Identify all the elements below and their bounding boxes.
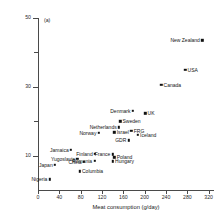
data-point xyxy=(78,170,80,172)
data-point-label: Columbia xyxy=(82,169,103,174)
x-axis-tick-label: 240 xyxy=(162,195,171,200)
data-point xyxy=(113,131,115,133)
x-axis-tick-label: 320 xyxy=(204,195,213,200)
data-point-label: UK xyxy=(148,111,155,116)
data-point xyxy=(83,161,85,163)
y-axis-tick-label: 30 xyxy=(25,84,31,89)
data-point xyxy=(130,130,132,132)
data-point-label: China xyxy=(68,159,81,164)
y-axis-tick: 30 xyxy=(33,87,38,88)
y-axis-tick: 10 xyxy=(33,156,38,157)
data-point-label: New Zealand xyxy=(170,38,199,43)
data-point-label: Canada xyxy=(164,83,182,88)
data-point xyxy=(137,134,139,136)
data-point-label: Norway xyxy=(79,130,96,135)
x-axis-tick-label: 120 xyxy=(98,195,107,200)
x-axis-tick: 40 xyxy=(59,190,60,194)
data-point-label: Jamaica xyxy=(50,148,69,153)
x-axis-tick: 200 xyxy=(145,190,146,194)
data-point-label: Denmark xyxy=(110,108,130,113)
x-axis-tick-label: 160 xyxy=(119,195,128,200)
x-axis-tick: 80 xyxy=(81,190,82,194)
data-point xyxy=(70,149,72,151)
data-point xyxy=(111,153,113,155)
x-axis-tick-label: 200 xyxy=(140,195,149,200)
data-point-label: Israel xyxy=(117,130,129,135)
data-point xyxy=(111,160,113,162)
x-axis-tick: 160 xyxy=(123,190,124,194)
x-axis-tick-label: 0 xyxy=(37,195,40,200)
x-axis-tick-label: 80 xyxy=(78,195,84,200)
scatter-chart: (a) Annual colon cancer incidence per 10… xyxy=(0,0,222,224)
data-point xyxy=(119,120,121,122)
data-point-label: Hungary xyxy=(115,159,134,164)
data-point-label: Sweden xyxy=(123,119,141,124)
data-point xyxy=(132,110,134,112)
data-point-label: GDR xyxy=(115,138,126,143)
data-point-label: Finland xyxy=(76,151,92,156)
y-axis-tick: 50 xyxy=(33,18,38,19)
data-point xyxy=(49,178,51,180)
x-axis-tick-label: 280 xyxy=(183,195,192,200)
x-axis-tick: 320 xyxy=(209,190,210,194)
data-point-label: France xyxy=(95,152,111,157)
x-axis-tick: 280 xyxy=(187,190,188,194)
y-axis-tick-label: 50 xyxy=(25,15,31,20)
data-point xyxy=(54,164,56,166)
data-point xyxy=(98,132,100,134)
x-axis-title: Meat consumption (g/day) xyxy=(38,205,214,211)
x-axis-tick: 240 xyxy=(166,190,167,194)
data-point-label: Iceland xyxy=(140,132,156,137)
data-point xyxy=(93,160,95,162)
plot-area: 10305004080120160200240280320New Zealand… xyxy=(38,18,214,190)
y-axis-tick xyxy=(34,52,38,53)
y-axis-tick xyxy=(34,121,38,122)
data-point xyxy=(184,68,186,70)
data-point xyxy=(201,39,203,41)
data-point-label: Japan xyxy=(39,162,53,167)
data-point-label: Nigeria xyxy=(31,177,47,182)
data-point xyxy=(160,84,162,86)
x-axis-tick-label: 40 xyxy=(56,195,62,200)
x-axis-tick: 120 xyxy=(102,190,103,194)
data-point-label: USA xyxy=(188,67,198,72)
x-axis-tick: 0 xyxy=(38,190,39,194)
y-axis-tick-label: 10 xyxy=(25,153,31,158)
data-point xyxy=(144,112,146,114)
data-point xyxy=(127,139,129,141)
